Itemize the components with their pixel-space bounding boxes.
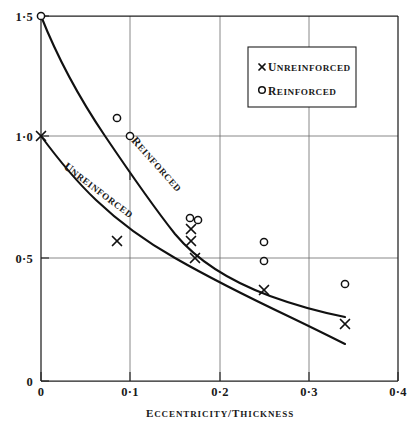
ytick-label-0-5: 0·5 — [15, 252, 33, 266]
xtick-label-0-3: 0·3 — [300, 385, 318, 399]
x-axis-title-cap: E — [146, 407, 154, 419]
data-point-circle — [260, 238, 267, 245]
data-point-circle — [194, 216, 201, 223]
legend-box — [248, 47, 356, 107]
legend-unreinforced-body: NREINFORCED — [277, 63, 351, 73]
data-point-circle — [37, 12, 44, 19]
data-point-circle — [186, 214, 193, 221]
chart-legend: UNREINFORCED REINFORCED — [248, 47, 356, 107]
data-point-circle — [260, 257, 267, 264]
xtick-label-0-4: 0·4 — [389, 385, 407, 399]
ytick-label-0: 0 — [26, 375, 33, 389]
legend-label-reinforced: REINFORCED — [268, 85, 336, 97]
legend-entry-unreinforced: UNREINFORCED — [259, 61, 351, 73]
x-axis-title-cap2: T — [232, 407, 240, 419]
data-point-circle — [126, 132, 133, 139]
ytick-label-1-0: 1·0 — [15, 130, 33, 144]
x-axis-title: ECCENTRICITY/THICKNESS — [146, 407, 294, 419]
ytick-label-1-5: 1·5 — [15, 10, 33, 24]
legend-reinforced-body: EINFORCED — [277, 87, 337, 97]
legend-reinforced-cap: R — [268, 85, 277, 97]
data-point-circle — [113, 114, 120, 121]
xtick-label-0-1: 0·1 — [121, 385, 139, 399]
chart-figure: 1·5 1·0 0·5 0 0 0·1 0·2 0·3 0·4 ECCENTRI… — [0, 0, 419, 430]
x-axis-title-body: CCENTRICITY — [154, 409, 228, 419]
xtick-label-0: 0 — [38, 385, 45, 399]
legend-entry-reinforced: REINFORCED — [259, 85, 337, 97]
eccentricity-thickness-chart: 1·5 1·0 0·5 0 0 0·1 0·2 0·3 0·4 ECCENTRI… — [0, 0, 419, 430]
legend-unreinforced-cap: U — [268, 61, 277, 73]
data-point-circle — [341, 280, 348, 287]
legend-label-unreinforced: UNREINFORCED — [268, 61, 351, 73]
circle-marker-icon — [259, 87, 266, 94]
xtick-label-0-2: 0·2 — [211, 385, 229, 399]
x-axis-title-body2: HICKNESS — [240, 409, 294, 419]
